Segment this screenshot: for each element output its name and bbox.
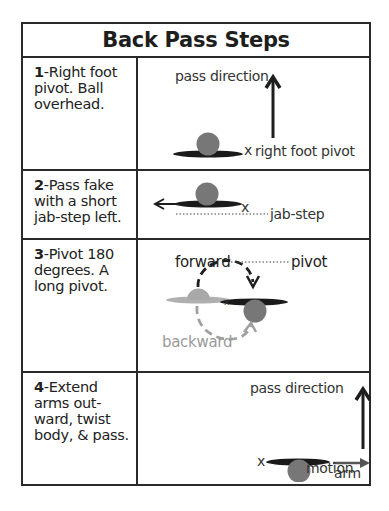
pivot-mark: x: [257, 453, 265, 469]
ball-light-icon: [187, 289, 210, 301]
step-number: 3: [34, 246, 44, 262]
arm-motion-label-2: motion: [306, 460, 353, 476]
step-description-3: 3-Pivot 180 degrees. A long pivot.: [23, 240, 138, 371]
jab-left-arrow-icon: [155, 199, 178, 209]
step-row-3: 3-Pivot 180 degrees. A long pivot. x for…: [23, 240, 369, 373]
pass-direction-arrow-icon: [266, 77, 280, 138]
step-text: -Pivot 180 degrees. A long pivot.: [34, 246, 114, 294]
ball-icon: [196, 183, 219, 206]
svg-text:x: x: [224, 297, 230, 307]
pivot-mark: x: [241, 199, 249, 215]
pass-direction-arrow-icon: [356, 389, 370, 449]
step-description-1: 1-Right foot pivot. Ball overhead.: [23, 58, 138, 169]
step-3-diagram: x: [138, 240, 371, 371]
step-row-2: 2-Pass fake with a short jab-step left. …: [23, 171, 369, 240]
step-text: -Pass fake with a short jab-step left.: [34, 177, 121, 225]
pivot-mark: x: [244, 142, 252, 158]
pivot-label: pivot: [291, 253, 327, 271]
back-pass-steps-table: Back Pass Steps 1-Right foot pivot. Ball…: [21, 22, 371, 486]
step-text: -Right foot pivot. Ball overhead.: [34, 64, 117, 112]
ball-icon: [244, 300, 267, 323]
step-figure-3: x forward pivot backward: [138, 240, 369, 371]
ball-icon: [197, 133, 220, 156]
backward-label: backward: [162, 333, 232, 351]
step-figure-1: pass direction x right foot pivot: [138, 58, 369, 169]
jab-step-label: jab-step: [270, 206, 324, 222]
step-description-4: 4-Extend arms out-ward, twist body, & pa…: [23, 373, 138, 484]
step-row-1: 1-Right foot pivot. Ball overhead. pass …: [23, 58, 369, 171]
step-description-2: 2-Pass fake with a short jab-step left.: [23, 171, 138, 238]
backward-arrowhead-icon: [244, 323, 256, 332]
step-text: -Extend arms out-ward, twist body, & pas…: [34, 379, 129, 443]
step-2-diagram: [138, 171, 371, 238]
right-foot-pivot-label: right foot pivot: [255, 143, 355, 159]
step-number: 2: [34, 177, 44, 193]
step-number: 4: [34, 379, 44, 395]
pass-direction-label: pass direction: [250, 380, 344, 396]
step-figure-2: x jab-step: [138, 171, 369, 238]
forward-label: forward: [175, 253, 230, 271]
table-title: Back Pass Steps: [23, 24, 369, 58]
pass-direction-label: pass direction: [175, 68, 269, 84]
step-number: 1: [34, 64, 44, 80]
